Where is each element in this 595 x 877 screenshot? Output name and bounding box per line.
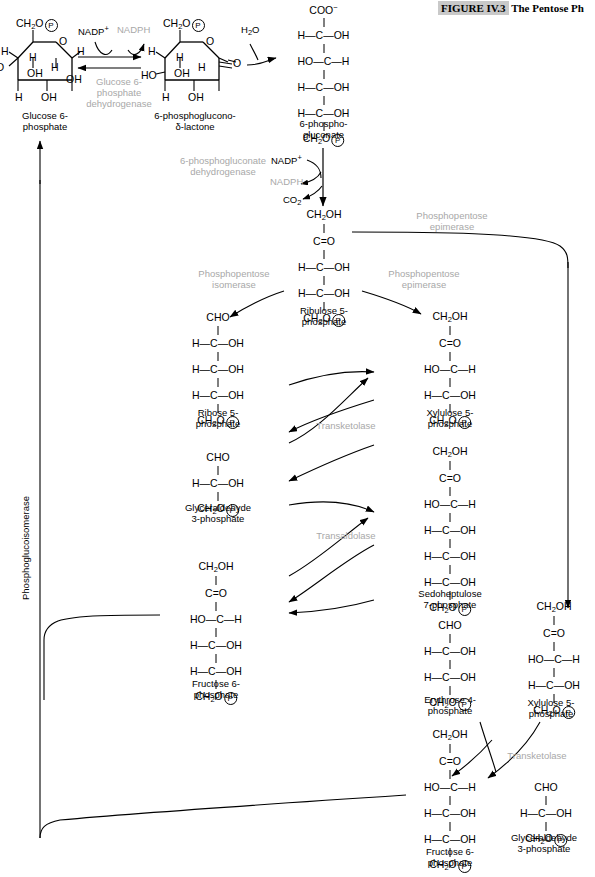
ring-label-lactone-h1: H: [148, 46, 156, 57]
water-h: H: [241, 24, 248, 35]
molecule-name-glyceraldehyde-3-phosphate-b: Glyceraldehyde 3-phosphate: [492, 832, 595, 854]
figure-title-text: The Pentose Ph: [511, 2, 584, 14]
ring-label-lactone-carbonyl-o: O: [233, 58, 241, 69]
enzyme-6-phosphogluconate-dehydrogenase: 6-phosphogluconate dehydrogenase: [163, 155, 283, 177]
molecule-name-lactone: 6-phosphoglucono- δ-lactone: [140, 110, 250, 132]
molecule-name-sedoheptulose-7-phosphate: Sedoheptulose 7-phosphate: [398, 588, 502, 610]
cofactor-water: H2O: [241, 24, 259, 37]
figure-title: FIGURE IV.3 The Pentose Ph: [438, 2, 584, 14]
ring-label-lactone-o: O: [206, 36, 214, 47]
molecule-name-ribulose-5-phosphate: Ribulose 5- phosphate: [278, 305, 370, 327]
enzyme-transketolase-2: Transketolase: [497, 750, 577, 761]
ring-label-lactone-oh2: OH: [188, 92, 204, 103]
cofactor-nadp-plus-1: NADP+: [78, 24, 109, 37]
molecule-name-fructose-6-phosphate-a: Fructose 6- phosphate: [166, 678, 266, 700]
phosphate-icon: P: [45, 19, 58, 32]
nadp-charge: +: [104, 24, 108, 33]
molecule-name-glucose-6-phosphate: Glucose 6- phosphate: [0, 110, 90, 132]
nadp-label: NADP: [78, 26, 104, 37]
enzyme-transketolase-1: Transketolase: [306, 420, 386, 431]
enzyme-transaldolase: Transaldolase: [306, 530, 386, 541]
nadp-charge: +: [297, 153, 301, 162]
molecule-name-glyceraldehyde-3-phosphate-a: Glyceraldehyde 3-phosphate: [164, 502, 272, 524]
ring-label-glucose-ch2op: CH2OP: [16, 18, 58, 32]
ring-label-glucose-h1: H: [1, 46, 9, 57]
ring-label-glucose-h5: H: [15, 92, 23, 103]
cofactor-nadph-2: NADPH: [270, 176, 303, 187]
enzyme-glucose-6-phosphate-dehydrogenase: Glucose 6- phosphate dehydrogenase: [73, 76, 165, 109]
enzyme-phosphopentose-epimerase-mid: Phosphopentose epimerase: [372, 268, 476, 290]
molecule-name-erythrose-4-phosphate: Erythrose 4- phosphate: [398, 694, 502, 716]
ring-label-lactone-h3: H: [198, 62, 206, 73]
ring-label-lactone-ch2op: CH2OP: [163, 18, 205, 32]
water-o: O: [252, 24, 259, 35]
enzyme-phosphopentose-epimerase-top: Phosphopentose epimerase: [400, 210, 504, 232]
co2-label: CO: [283, 194, 297, 205]
molecule-name-6-phosphogluconate: 6-phospho- gluconate: [276, 118, 371, 140]
co2-sub: 2: [297, 198, 301, 207]
phosphate-icon: P: [192, 19, 205, 32]
ring-label-glucose-oh1: OH: [27, 68, 43, 79]
ring-label-glucose-h2: H: [77, 46, 85, 57]
enzyme-phosphopentose-isomerase: Phosphopentose isomerase: [182, 268, 286, 290]
molecule-name-xylulose-5-phosphate-a: Xylulose 5- phosphate: [404, 407, 496, 429]
figure-number: FIGURE IV.3: [438, 1, 509, 15]
cofactor-co2: CO2: [283, 194, 301, 207]
cofactor-nadph-1: NADPH: [117, 24, 150, 35]
ring-label-glucose-h4: H: [51, 62, 59, 73]
molecule-name-ribose-5-phosphate: Ribose 5- phosphate: [172, 407, 264, 429]
figure-canvas: FIGURE IV.3 The Pentose Ph: [0, 0, 595, 877]
molecule-name-xylulose-5-phosphate-b: Xylulose 5- phosphate: [505, 697, 595, 719]
ring-label-glucose-h3: H: [29, 52, 37, 63]
enzyme-phosphoglucoisomerase: Phosphoglucoisomerase: [20, 496, 31, 600]
ring-label-glucose-oh3: OH: [41, 92, 57, 103]
ring-label-lactone-oh1: OH: [174, 68, 190, 79]
molecule-name-fructose-6-phosphate-b: Fructose 6- phosphate: [400, 846, 500, 868]
ring-label-glucose-o: O: [59, 36, 67, 47]
ring-label-glucose-o2: O: [0, 62, 4, 73]
ring-label-lactone-h2: H: [176, 52, 184, 63]
